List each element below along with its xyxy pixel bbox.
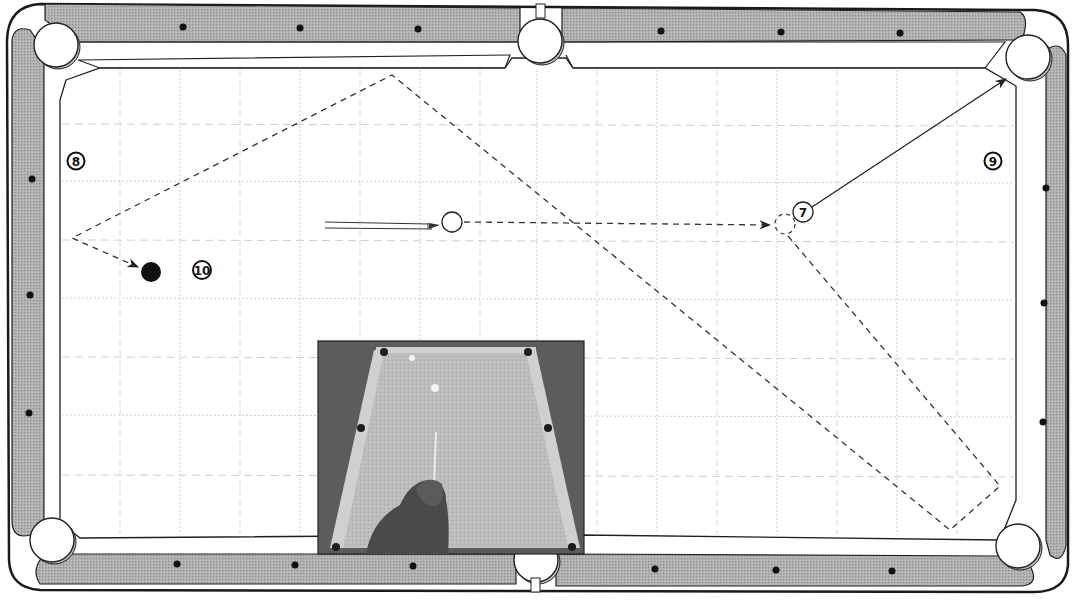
photo-top-rail [376,347,536,353]
diamond-marker [292,562,299,569]
diamond-marker [27,292,34,299]
diamond-marker [415,26,422,33]
ball-9-label: 9 [989,155,997,169]
photo-pocket [524,348,532,356]
cue-ball-final-position [141,262,161,282]
diamond-marker [410,563,417,570]
diamond-marker [658,28,665,35]
ball-9: 9 [985,153,1002,170]
ball-8-label: 8 [72,155,80,169]
left-rail [12,29,44,536]
pocket-hole [30,518,74,562]
ball-10: 10 [193,261,211,279]
photo-ball [409,355,415,361]
pocket-hole [1006,35,1050,79]
ball-8: 8 [68,153,85,170]
diamond-marker [297,25,304,32]
pocket-hole [996,524,1040,568]
diamond-marker [773,567,780,574]
ball-7-label: 7 [799,206,807,220]
inset-photo [318,341,584,554]
ball-10-label: 10 [194,264,211,278]
right-rail [1046,46,1066,558]
diamond-marker [1043,185,1050,192]
diamond-marker [180,24,187,31]
photo-pocket [332,543,340,551]
diamond-marker [29,176,36,183]
diamond-marker [26,410,33,417]
ball-7: 7 [793,202,813,222]
diamond-marker [652,566,659,573]
billiards-diagram: 7 8 9 10 [0,0,1073,602]
pocket-tab [531,578,540,592]
photo-pocket [380,348,388,356]
photo-pocket [544,424,552,432]
top-rail-right [562,8,1026,42]
top-rail-left [45,4,520,42]
diamond-marker [174,561,181,568]
pocket-hole [518,19,562,63]
photo-pocket [357,424,365,432]
diamond-marker [897,30,904,37]
photo-ball [431,384,439,392]
photo-pocket [568,543,576,551]
pocket-hole [34,23,78,67]
cue-ball [442,212,462,232]
bottom-rail-left [36,554,516,584]
pocket-tab [536,4,545,18]
diamond-marker [1040,419,1047,426]
diamond-marker [778,29,785,36]
bottom-rail-right [556,554,1034,586]
diamond-marker [889,568,896,575]
diamond-marker [1041,300,1048,307]
